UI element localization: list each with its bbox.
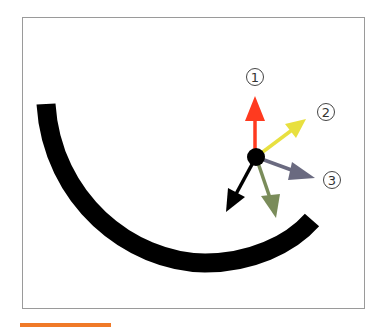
arrow-1-icon [245, 96, 265, 157]
arrow-2-icon [256, 119, 306, 157]
arrow-black-icon [226, 157, 256, 212]
pivot-point [247, 148, 265, 166]
label-3: 3 [323, 171, 341, 189]
label-2: 2 [317, 103, 335, 121]
curved-track [46, 104, 312, 263]
arrow-3-icon [256, 157, 315, 180]
force-diagram [0, 0, 383, 327]
label-1: 1 [246, 68, 264, 86]
accent-bar [20, 323, 111, 327]
